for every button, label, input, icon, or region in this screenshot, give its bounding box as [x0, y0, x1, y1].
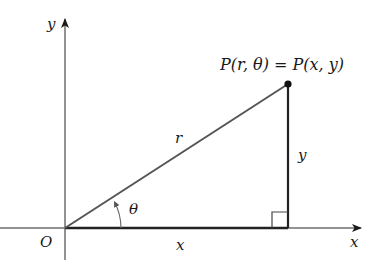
hypotenuse-label: r — [175, 129, 183, 147]
point-p — [284, 80, 291, 87]
point-label: P(r, θ) = P(x, y) — [219, 55, 344, 74]
hypotenuse-r — [65, 84, 288, 228]
angle-arc-icon — [115, 202, 122, 228]
origin-label: O — [40, 233, 52, 251]
horizontal-segment-label: x — [176, 236, 185, 254]
right-angle-marker — [272, 212, 288, 228]
vertical-segment-label: y — [297, 146, 307, 164]
x-axis-label: x — [350, 233, 359, 251]
angle-label: θ — [129, 200, 138, 218]
polar-coordinates-diagram: y x O P(r, θ) = P(x, y) r y x θ — [0, 0, 387, 280]
y-axis-label: y — [46, 15, 56, 33]
